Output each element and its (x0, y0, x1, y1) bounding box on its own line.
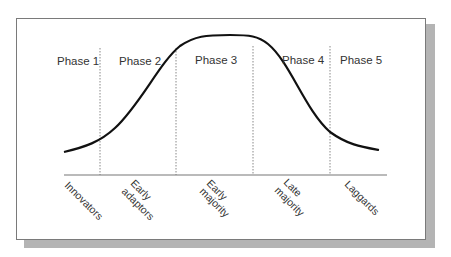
phase-label-1: Phase 1 (57, 55, 99, 67)
phase-label-2: Phase 2 (119, 55, 161, 67)
phase-label-5: Phase 5 (340, 54, 382, 66)
phase-label-3: Phase 3 (195, 54, 237, 66)
adoption-curve-diagram: Phase 1 Phase 2 Phase 3 Phase 4 Phase 5 … (0, 0, 451, 257)
adoption-curve (64, 35, 379, 152)
category-innovators: Innovators (63, 179, 106, 222)
category-laggards: Laggards (343, 178, 382, 217)
phase-label-4: Phase 4 (282, 54, 325, 66)
